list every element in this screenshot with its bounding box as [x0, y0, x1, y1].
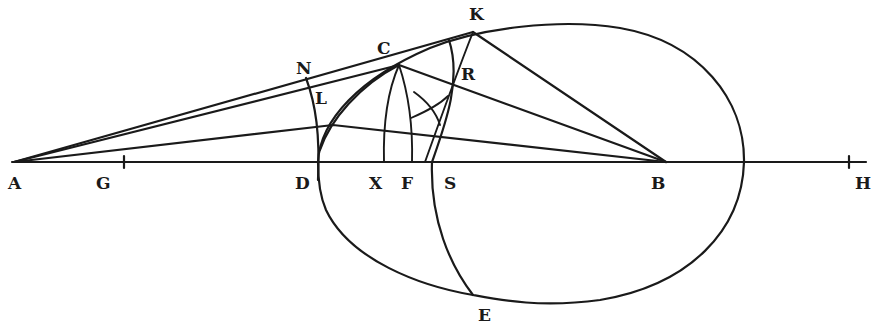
label-E: E	[478, 305, 491, 325]
label-B: B	[651, 173, 665, 193]
line-AK	[14, 32, 473, 162]
label-H: H	[855, 173, 871, 193]
label-F: F	[401, 173, 413, 193]
label-R: R	[461, 64, 476, 84]
label-G: G	[96, 173, 111, 193]
arc-CX	[384, 65, 399, 162]
label-A: A	[7, 173, 22, 193]
label-L: L	[315, 88, 327, 108]
label-X: X	[369, 173, 383, 193]
label-N: N	[296, 58, 312, 78]
label-S: S	[444, 173, 456, 193]
label-K: K	[469, 4, 485, 24]
chord-K-to-S	[425, 32, 473, 162]
label-D: D	[295, 173, 310, 193]
line-A-to-B-via-bend	[14, 125, 666, 162]
line-KB	[473, 32, 666, 162]
cross-arc-R	[414, 92, 440, 125]
geometric-diagram: A G D X F S B H C K N L R E	[0, 0, 880, 334]
label-C: C	[377, 38, 391, 58]
arc-CF	[399, 65, 412, 162]
oval-curve	[318, 24, 744, 303]
